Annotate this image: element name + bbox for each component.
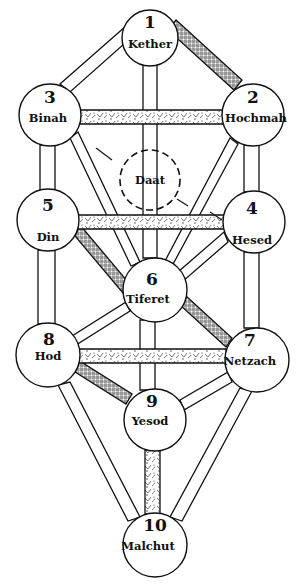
path-netzach-yesod [180, 372, 232, 410]
sefira-netzach: 7 Netzach [224, 328, 289, 392]
sefira-number: 5 [42, 195, 54, 215]
sefira-din: 5 Din [17, 189, 79, 251]
sefira-number: 10 [143, 515, 167, 535]
sefira-label: Binah [29, 111, 68, 125]
sefira-label: Din [37, 230, 60, 244]
arrow-icon [96, 148, 112, 160]
sefira-number: 6 [146, 269, 158, 289]
arrow-icon [177, 199, 188, 206]
sefira-malchut: 10 Malchut [121, 513, 187, 577]
path-hesed-netzach [244, 252, 259, 328]
sefira-label: Yesod [131, 414, 169, 428]
sefira-number: 2 [247, 87, 259, 107]
sefira-label: Hesed [232, 233, 272, 247]
path-din-hod [38, 250, 55, 324]
sefira-label: Malchut [121, 539, 175, 553]
sefira-number: 9 [146, 391, 158, 411]
path-kether-hochmah [168, 20, 242, 90]
tree-of-life-diagram: Daat 1 Kether 2 Hochmah 3 Binah 4 Hesed … [0, 0, 304, 587]
sefira-label: Hochmah [225, 111, 288, 125]
path-din-hesed [78, 215, 224, 229]
path-hod-netzach [78, 349, 226, 363]
sefira-number: 3 [44, 87, 56, 107]
daat-label: Daat [135, 173, 166, 187]
path-yesod-malchut [145, 450, 160, 514]
sefira-hod: 8 Hod [16, 323, 80, 387]
path-binah-din [40, 145, 55, 190]
sefira-hesed: 4 Hesed [223, 191, 285, 253]
sefira-yesod: 9 Yesod [124, 389, 186, 451]
path-binah-hochmah [80, 110, 224, 124]
sefira-hochmah: 2 Hochmah [222, 84, 288, 146]
sefira-label: Kether [128, 37, 173, 51]
sefira-number: 8 [43, 329, 55, 349]
sefira-label: Tiferet [126, 292, 171, 306]
sefira-kether: 1 Kether [122, 10, 178, 66]
sefira-number: 4 [246, 198, 258, 218]
path-binah-tiferet [70, 132, 140, 266]
sefira-tiferet: 6 Tiferet [123, 258, 187, 322]
path-tiferet-netzach [180, 296, 232, 347]
path-hod-yesod [72, 360, 132, 404]
sefira-label: Netzach [224, 354, 277, 368]
path-hod-malchut [58, 382, 140, 521]
path-tiferet-hod [72, 302, 130, 345]
sefira-number: 7 [244, 330, 256, 350]
path-hochmah-hesed [244, 145, 259, 192]
path-hochmah-tiferet [165, 138, 238, 266]
sefira-label: Hod [35, 349, 62, 363]
sefira-number: 1 [144, 12, 156, 32]
sefira-binah: 3 Binah [19, 84, 81, 146]
